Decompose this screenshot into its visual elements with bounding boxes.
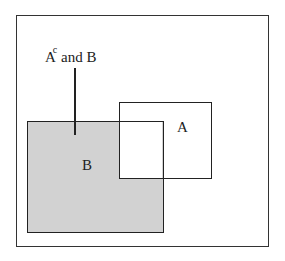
annotation-rest: and B [57,49,96,65]
complement-superscript: c [53,44,57,55]
set-a-box [119,102,212,179]
set-b-label: B [82,158,92,173]
annotation-pointer-line [74,68,76,135]
set-a-label: A [177,120,188,135]
annotation-label: Ac and B [45,45,96,65]
